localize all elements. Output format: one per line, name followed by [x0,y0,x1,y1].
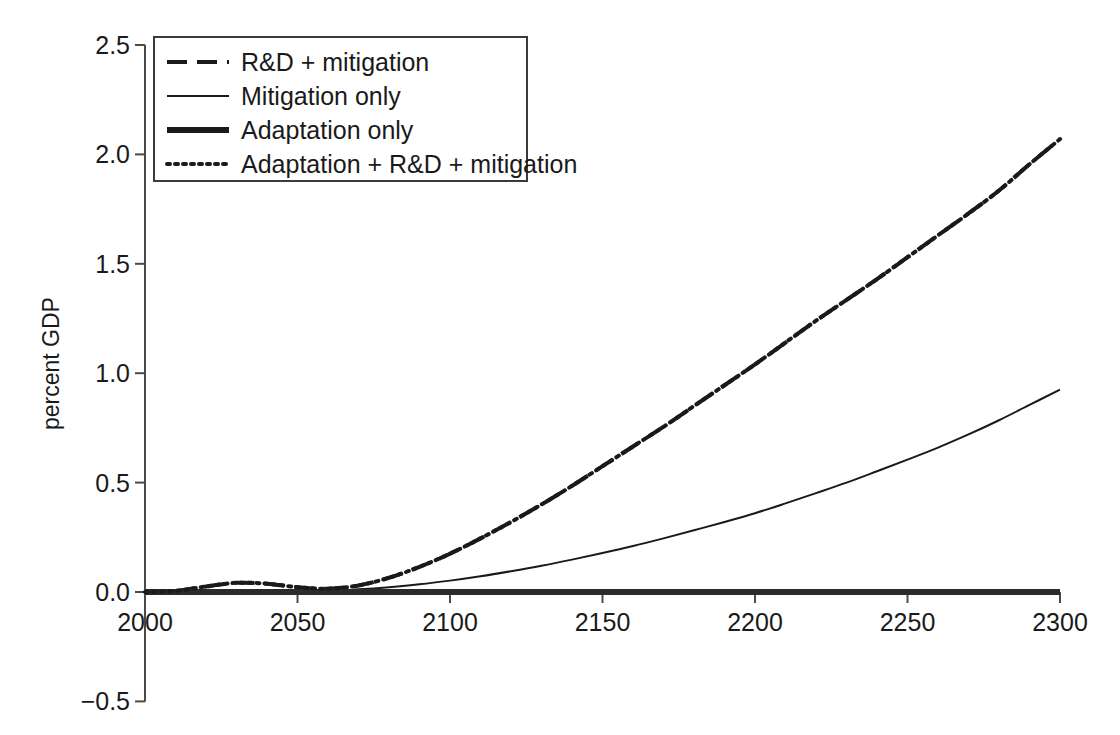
series-line-0 [145,139,1060,592]
legend-item-label: Adaptation only [241,118,413,143]
y-tick-label: 0.5 [45,468,130,497]
legend-item: R&D + mitigation [165,44,520,80]
y-tick-label: 2.0 [45,140,130,169]
x-tick-label: 2250 [880,608,936,637]
x-tick-label: 2300 [1032,608,1088,637]
legend-item-label: Adaptation + R&D + mitigation [241,152,577,177]
x-tick-label: 2000 [117,608,173,637]
y-tick-label: 2.5 [45,31,130,60]
legend-line-sample-icon [165,119,231,141]
legend-item-label: R&D + mitigation [241,50,429,75]
y-tick-label: 1.5 [45,249,130,278]
legend-line-sample-icon [165,85,231,107]
x-tick-label: 2050 [270,608,326,637]
series-line-3 [145,139,1060,592]
series-line-1 [145,390,1060,592]
y-tick-label: 0.0 [45,578,130,607]
legend-item: Adaptation + R&D + mitigation [165,146,520,182]
legend-line-sample-icon [165,153,231,175]
x-tick-label: 2200 [727,608,783,637]
x-tick-label: 2100 [422,608,478,637]
y-tick-label: 1.0 [45,359,130,388]
chart-legend: R&D + mitigationMitigation onlyAdaptatio… [153,36,528,182]
chart-figure: percent GDP 2.52.01.51.00.50.0−0.5 20002… [0,0,1120,735]
legend-item-label: Mitigation only [241,84,401,109]
x-tick-label: 2150 [575,608,631,637]
legend-item: Adaptation only [165,112,520,148]
y-tick-label: −0.5 [45,687,130,716]
legend-line-sample-icon [165,51,231,73]
legend-item: Mitigation only [165,78,520,114]
